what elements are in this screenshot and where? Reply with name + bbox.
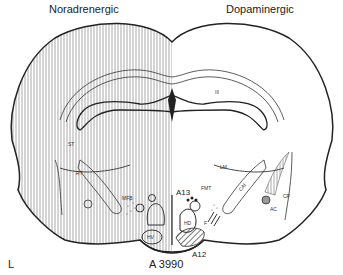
label-HD: HD <box>184 220 191 226</box>
label-MFB: MFB <box>122 195 133 201</box>
label-F: F <box>204 220 207 226</box>
corner-label: L <box>8 258 14 270</box>
label-A13: A13 <box>176 188 190 197</box>
label-LM: LM <box>220 164 227 170</box>
label-FMT: FMT <box>201 185 211 191</box>
section-label: A 3990 <box>149 258 183 270</box>
title-noradrenergic: Noradrenergic <box>49 3 119 15</box>
label-ST: ST <box>68 141 74 147</box>
label-HV: HV <box>147 234 154 240</box>
label-A12: A12 <box>192 250 206 259</box>
title-dopaminergic: Dopaminergic <box>226 3 294 15</box>
label-RT: RT <box>76 170 83 176</box>
brain-outline-drawing <box>0 0 343 275</box>
label-CP: CP <box>283 193 290 199</box>
brain-section-diagram: Noradrenergic Dopaminergic III ST LM A13… <box>0 0 343 275</box>
label-AC: AC <box>270 206 277 212</box>
label-III: III <box>215 89 219 95</box>
